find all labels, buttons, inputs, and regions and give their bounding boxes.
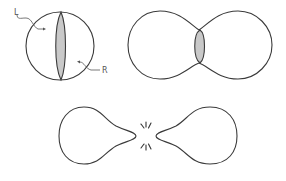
label-r-pointer xyxy=(80,62,100,70)
break-burst-icon xyxy=(141,122,151,150)
label-l-pointer xyxy=(17,14,43,29)
label-r: R xyxy=(102,66,108,75)
stage-2-dumbbell xyxy=(128,11,272,79)
label-l: L xyxy=(14,8,19,17)
division-plane xyxy=(56,12,66,80)
stage-3-separation xyxy=(59,107,237,164)
right-daughter-cell xyxy=(156,107,237,164)
left-daughter-cell xyxy=(59,107,136,164)
constriction-plane xyxy=(195,30,205,63)
label-r-arrowhead-icon xyxy=(77,61,80,64)
stage-1-sphere: L R xyxy=(14,8,108,80)
label-l-arrowhead-icon xyxy=(43,28,46,31)
division-diagram: L R xyxy=(0,0,286,181)
